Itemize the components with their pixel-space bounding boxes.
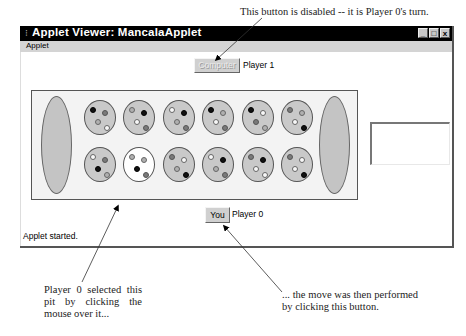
arrow-to-selected-pit [82, 206, 118, 282]
arrow-to-you-button [224, 226, 282, 292]
annotation-arrows [0, 0, 466, 336]
arrow-to-computer-button [216, 18, 262, 60]
